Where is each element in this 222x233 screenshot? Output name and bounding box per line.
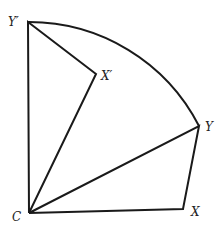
arc-y-prime-to-y	[28, 22, 199, 126]
label-x: X	[190, 205, 200, 219]
rotation-diagram: Y′ X′ Y X C	[0, 0, 222, 233]
label-y: Y	[205, 120, 214, 134]
label-c: C	[12, 210, 21, 224]
label-y-prime: Y′	[8, 15, 19, 29]
triangle-cxy	[29, 126, 199, 213]
label-x-prime: X′	[100, 69, 113, 83]
